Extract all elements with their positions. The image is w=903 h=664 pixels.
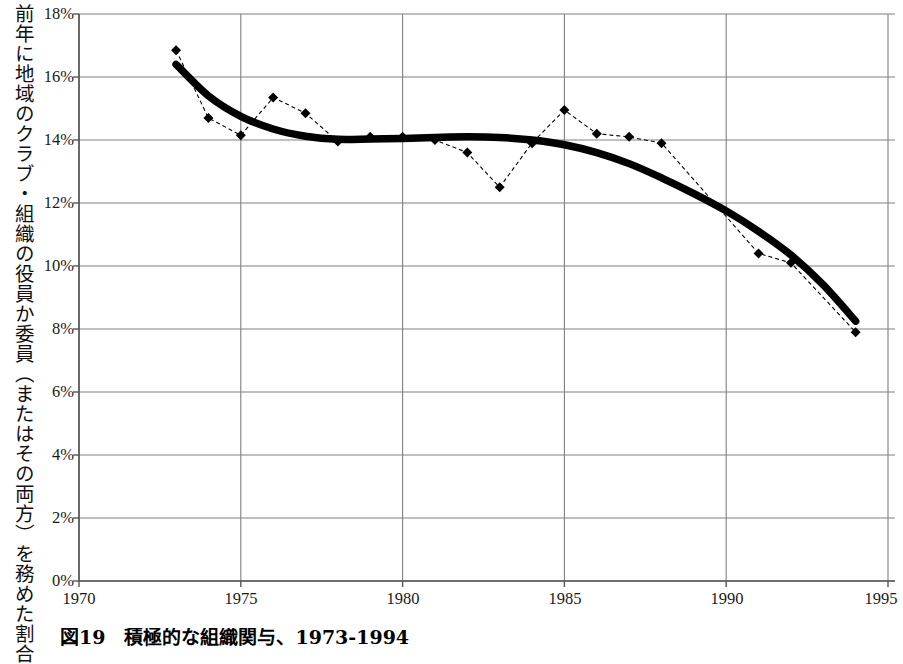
axis-lines <box>73 14 895 587</box>
series-observed-markers <box>171 45 861 337</box>
series-observed-line <box>176 50 856 332</box>
gridlines <box>79 14 895 581</box>
series-trend-line <box>176 64 856 321</box>
figure-caption: 図19 積極的な組織関与、1973-1994 <box>60 628 860 647</box>
